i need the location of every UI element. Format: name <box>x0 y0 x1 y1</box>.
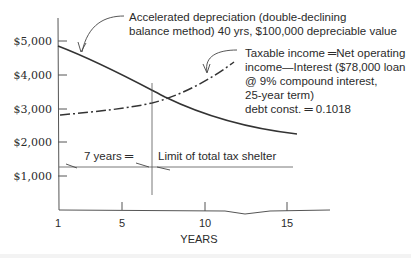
limit-label: Limit of total tax shelter <box>158 150 276 162</box>
y-tick-label: $3,000 <box>14 103 53 116</box>
x-axis <box>59 210 330 214</box>
y-tick-label: $5,000 <box>14 35 53 48</box>
income-pointer-arrow-icon <box>207 50 237 72</box>
y-tick-label: $1,000 <box>14 170 53 183</box>
y-tick-label: $4,000 <box>14 69 53 82</box>
income-annotation-line2: income—Interest ($78,000 loan <box>245 61 405 73</box>
income-annotation-line3: @ 9% compound interest, <box>245 75 378 87</box>
bottom-strip <box>0 254 411 258</box>
y-tick-label: $2,000 <box>14 136 53 149</box>
x-tick-label: 1 <box>55 217 61 229</box>
x-tick-label: 10 <box>199 217 211 229</box>
span-arrow-right-icon <box>136 163 149 167</box>
seven-years-label: 7 years ═ <box>84 150 134 162</box>
span-arrow-limit-icon <box>157 167 170 170</box>
x-tick-label: 15 <box>281 217 293 229</box>
x-ticks <box>122 202 287 211</box>
x-tick-label: 5 <box>119 217 125 229</box>
income-annotation-line4: 25-year term) <box>245 89 314 101</box>
y-ticks <box>58 41 67 176</box>
depreciation-chart: $5,000 $4,000 $3,000 $2,000 $1,000 1 5 1… <box>0 0 411 258</box>
income-annotation-line1: Taxable income ═Net operating <box>245 47 405 59</box>
depreciation-annotation-line1: Accelerated depreciation (double-declini… <box>129 11 346 23</box>
depreciation-pointer-arrow-icon <box>82 16 124 52</box>
x-axis-title: YEARS <box>180 233 217 245</box>
depreciation-annotation-line2: balance method) 40 yrs, $100,000 depreci… <box>129 25 397 37</box>
income-annotation-line5: debt const. ═ 0.1018 <box>245 103 351 115</box>
